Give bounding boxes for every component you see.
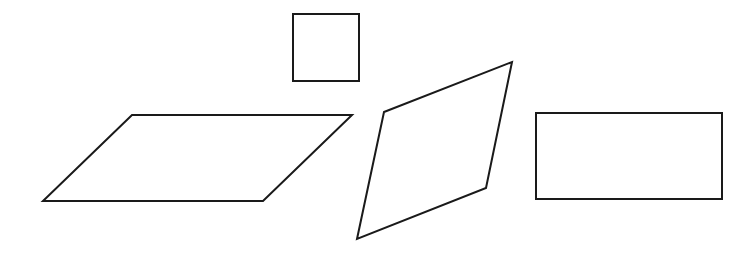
parallelogram-shape [43,115,352,201]
shapes-diagram [0,0,751,257]
rhombus-shape [357,62,512,239]
rectangle-shape [536,113,722,199]
shapes-svg [0,0,751,257]
square-shape [293,14,359,81]
